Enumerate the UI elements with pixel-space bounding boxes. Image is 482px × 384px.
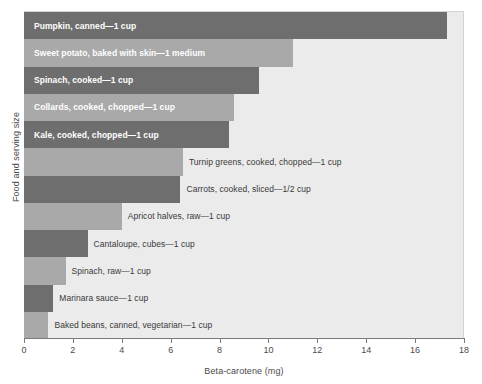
x-tick-mark (73, 338, 74, 343)
bar-row: Kale, cooked, chopped—1 cup (24, 121, 463, 148)
bar (24, 203, 122, 230)
x-tick-mark (268, 338, 269, 343)
bar-label: Marinara sauce—1 cup (59, 293, 148, 303)
bar-series: Pumpkin, canned—1 cupSweet potato, baked… (24, 12, 463, 338)
bar-row: Pumpkin, canned—1 cup (24, 12, 463, 39)
x-tick-label: 0 (21, 345, 26, 355)
beta-carotene-bar-chart: Food and serving size Pumpkin, canned—1 … (0, 0, 482, 384)
bar-row: Sweet potato, baked with skin—1 medium (24, 39, 463, 66)
bar-label: Sweet potato, baked with skin—1 medium (34, 48, 205, 58)
bar-row: Spinach, cooked—1 cup (24, 67, 463, 94)
x-tick-label: 10 (263, 345, 273, 355)
bar (24, 230, 88, 257)
plot-area: Pumpkin, canned—1 cupSweet potato, baked… (24, 11, 464, 338)
x-tick-mark (415, 338, 416, 343)
x-axis-title: Beta-carotene (mg) (24, 366, 464, 376)
x-tick-mark (171, 338, 172, 343)
x-tick-label: 14 (361, 345, 371, 355)
bar-row: Turnip greens, cooked, chopped—1 cup (24, 148, 463, 175)
bar (24, 148, 183, 175)
x-tick-label: 6 (168, 345, 173, 355)
bar (24, 257, 66, 284)
bar (24, 285, 53, 312)
bar-row: Apricot halves, raw—1 cup (24, 203, 463, 230)
x-tick-label: 12 (312, 345, 322, 355)
bar-row: Marinara sauce—1 cup (24, 285, 463, 312)
bar-row: Collards, cooked, chopped—1 cup (24, 94, 463, 121)
bar-label: Pumpkin, canned—1 cup (34, 21, 136, 31)
bar (24, 176, 180, 203)
x-tick-mark (122, 338, 123, 343)
bar-label: Spinach, raw—1 cup (72, 266, 151, 276)
y-axis-title: Food and serving size (11, 92, 21, 222)
x-tick-label: 18 (459, 345, 469, 355)
bar-row: Spinach, raw—1 cup (24, 257, 463, 284)
x-tick-mark (24, 338, 25, 343)
x-axis-line (24, 338, 464, 339)
x-tick-mark (220, 338, 221, 343)
x-tick-mark (317, 338, 318, 343)
bar-row: Carrots, cooked, sliced—1/2 cup (24, 176, 463, 203)
bar-label: Turnip greens, cooked, chopped—1 cup (189, 157, 342, 167)
bar-row: Cantaloupe, cubes—1 cup (24, 230, 463, 257)
bar-label: Apricot halves, raw—1 cup (128, 211, 230, 221)
bar-label: Spinach, cooked—1 cup (34, 75, 133, 85)
x-tick-mark (464, 338, 465, 343)
x-tick-label: 8 (217, 345, 222, 355)
bar-label: Baked beans, canned, vegetarian—1 cup (54, 320, 212, 330)
bar-label: Kale, cooked, chopped—1 cup (34, 130, 159, 140)
x-tick-label: 4 (119, 345, 124, 355)
bar-row: Baked beans, canned, vegetarian—1 cup (24, 312, 463, 339)
bar-label: Carrots, cooked, sliced—1/2 cup (186, 184, 310, 194)
x-tick-mark (366, 338, 367, 343)
bar (24, 312, 48, 339)
bar-label: Cantaloupe, cubes—1 cup (94, 239, 195, 249)
x-tick-label: 16 (410, 345, 420, 355)
x-tick-label: 2 (70, 345, 75, 355)
bar-label: Collards, cooked, chopped—1 cup (34, 102, 175, 112)
